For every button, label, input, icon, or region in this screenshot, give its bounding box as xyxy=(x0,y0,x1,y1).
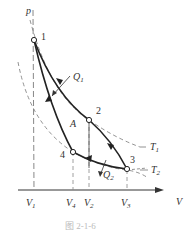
v2-label: V2 xyxy=(84,197,94,210)
arrow-icon-2-3 xyxy=(107,143,114,150)
v-axis-label: V xyxy=(176,196,184,207)
point-2-label: 2 xyxy=(96,105,101,116)
v1-label: V1 xyxy=(26,197,36,210)
v4-label: V4 xyxy=(66,197,76,210)
t2-label: T2 xyxy=(151,164,161,177)
point-1 xyxy=(31,37,36,42)
point-2 xyxy=(86,117,91,122)
curve-4-to-1 xyxy=(34,40,73,152)
p-axis-label: p xyxy=(25,5,31,16)
q1-label: Q1 xyxy=(73,71,84,84)
figure-caption: 图 2-1-6 xyxy=(65,221,96,231)
v-axis-arrow-icon xyxy=(155,187,164,193)
arrow-icon-1-2 xyxy=(56,78,63,85)
t1-label: T1 xyxy=(150,141,159,154)
v3-label: V3 xyxy=(121,197,131,210)
q2-label: Q2 xyxy=(103,169,114,182)
arrow-icon-3-4 xyxy=(85,155,92,162)
area-label: A xyxy=(69,118,77,129)
point-3-label: 3 xyxy=(130,154,135,165)
point-4-label: 4 xyxy=(60,149,65,160)
point-1-label: 1 xyxy=(41,31,46,42)
pv-cycle-diagram: p V 1 2 3 4 A Q1 Q2 T1 T2 V1 V4 V xyxy=(0,0,190,240)
point-4 xyxy=(70,149,75,154)
curve-1-to-3 xyxy=(34,40,127,169)
point-3 xyxy=(124,166,129,171)
